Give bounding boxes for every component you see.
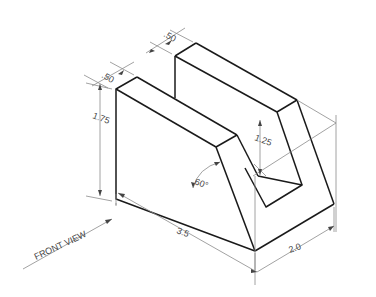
left-wall-top-back-edge	[137, 77, 237, 135]
left-wall-slant-edge	[216, 147, 255, 251]
dim-length-label: 3.5	[175, 225, 190, 239]
slot-floor	[245, 168, 302, 207]
dim-depth-back-label: .50	[162, 29, 178, 44]
dim-angle-label: 60°	[193, 176, 210, 190]
back-wall-top-front-edge	[175, 56, 277, 112]
front-view-label: FRONT VIEW	[33, 229, 89, 262]
back-wall-top-left-edge	[175, 43, 196, 56]
left-wall-top-end	[216, 135, 237, 147]
back-wall-slant-outer-edge	[297, 100, 334, 204]
left-wall-top-front-edge	[116, 89, 216, 147]
object-outline	[116, 43, 334, 251]
dim-width-label: 2.0	[287, 241, 302, 255]
isometric-drawing: .50 .50 1.75 1.25 60° 3.5 2.0 FRONT VIEW	[0, 0, 376, 297]
back-wall-top-back-edge	[196, 43, 297, 100]
back-wall-slant-inner-edge	[277, 112, 302, 185]
dim-depth-left-label: .50	[100, 70, 116, 85]
back-wall-top-end	[277, 100, 297, 112]
left-wall-front-face	[116, 77, 255, 251]
dim-height-label: 1.75	[91, 110, 111, 125]
dim-slot-height-label: 1.25	[253, 132, 273, 147]
